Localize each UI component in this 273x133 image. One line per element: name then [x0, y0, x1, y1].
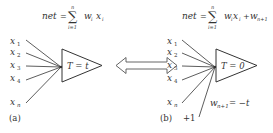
- formula-a-w-sub: i: [91, 16, 93, 22]
- formula-b-lhs: net: [182, 11, 197, 21]
- caption-a: (a): [9, 113, 21, 123]
- formula-b-bias-w-sub: n+1: [257, 16, 268, 22]
- input-x4-a: x: [10, 73, 15, 83]
- input-x1-b: x: [167, 36, 172, 46]
- input-x4-b: x: [167, 73, 172, 83]
- input-x2-b: x: [167, 47, 172, 57]
- svg-text:2: 2: [17, 52, 21, 58]
- svg-text:3: 3: [174, 65, 178, 71]
- svg-text:1: 1: [17, 41, 21, 47]
- threshold-label-b: T = 0: [221, 61, 245, 71]
- svg-text:4: 4: [17, 78, 21, 84]
- bias-line: [199, 67, 215, 117]
- svg-text:= −t: = −t: [229, 98, 250, 108]
- panel-b: net = ∑ n i=1 w i x i + w n+1 x 1 x: [160, 4, 268, 123]
- svg-text:n+1: n+1: [217, 103, 229, 109]
- svg-text:2: 2: [174, 52, 178, 58]
- input-x2-a: x: [10, 47, 15, 57]
- formula-b-sum-bottom: i=1: [208, 24, 217, 30]
- formula-a-x: x: [96, 11, 101, 21]
- panel-a: net = ∑ n i=1 w i x i x 1 x 2 x 3 x: [9, 4, 104, 123]
- formula-b-x-sub: i: [239, 16, 241, 22]
- input-x3-b: x: [167, 60, 172, 70]
- formula-a-x-sub: i: [102, 16, 104, 22]
- formula-b-eq: =: [200, 12, 207, 21]
- formula-a-sum-bottom: i=1: [68, 24, 77, 30]
- svg-text:1: 1: [174, 41, 178, 47]
- formula-b: net = ∑ n i=1 w i x i + w n+1: [182, 4, 268, 30]
- svg-text:4: 4: [174, 78, 178, 84]
- svg-text:3: 3: [17, 65, 21, 71]
- formula-b-plus: +: [243, 12, 250, 21]
- threshold-label-a: T = t: [67, 61, 89, 71]
- bias-input-label: +1: [183, 113, 196, 123]
- caption-b: (b): [160, 113, 172, 123]
- input-xn-a: x: [10, 97, 15, 107]
- input-x3-a: x: [10, 60, 15, 70]
- input-x1-a: x: [10, 36, 15, 46]
- formula-a-lhs: net: [42, 11, 57, 21]
- svg-text:n: n: [174, 102, 178, 108]
- formula-a-sum: ∑: [68, 9, 78, 24]
- formula-a: net = ∑ n i=1 w i x i: [42, 4, 104, 30]
- formula-a-eq: =: [60, 12, 67, 21]
- input-labels-a: x 1 x 2 x 3 x 4 x n: [10, 36, 21, 108]
- formula-a-sum-top: n: [71, 4, 74, 10]
- input-lines-a: [26, 40, 61, 103]
- formula-b-x: x: [233, 11, 238, 21]
- formula-b-sum-top: n: [211, 4, 214, 10]
- input-xn-b: x: [167, 97, 172, 107]
- perceptron-diagram: net = ∑ n i=1 w i x i x 1 x 2 x 3 x: [0, 0, 273, 133]
- formula-b-sum: ∑: [208, 9, 218, 24]
- bias-weight-label: w n+1 = −t: [210, 98, 250, 109]
- svg-text:n: n: [17, 102, 21, 108]
